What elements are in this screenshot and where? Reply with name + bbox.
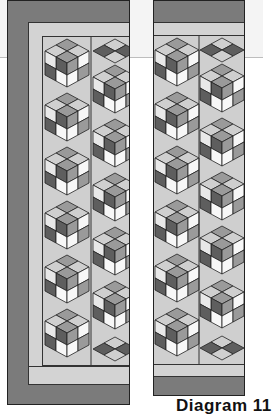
cube-pattern-right-svg [154,36,245,365]
right-bottom-border-light [153,364,245,377]
right-quilt-panel [153,0,245,396]
right-cube-pattern [153,35,245,365]
diagram-caption: Diagram 11 [176,396,272,416]
left-quilt-panel [7,0,130,405]
left-bottom-border-light [28,366,130,385]
cube-pattern-left-svg [43,37,130,366]
left-cube-pattern [42,36,130,366]
right-inner-border-light [153,22,245,36]
